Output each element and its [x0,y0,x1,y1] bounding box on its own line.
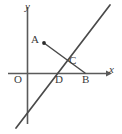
y-axis-label: y [25,1,30,12]
point-c-label: C [69,55,76,66]
segment-ab [44,43,85,73]
geometry-figure: y x O A B C D [0,0,122,134]
origin-label: O [14,74,22,85]
point-d-label: D [55,74,63,85]
figure-canvas [0,0,122,134]
x-axis-label: x [109,64,114,75]
point-a-dot [42,41,46,45]
point-a-label: A [31,34,39,45]
point-b-label: B [82,74,89,85]
diagonal-line [16,5,110,128]
